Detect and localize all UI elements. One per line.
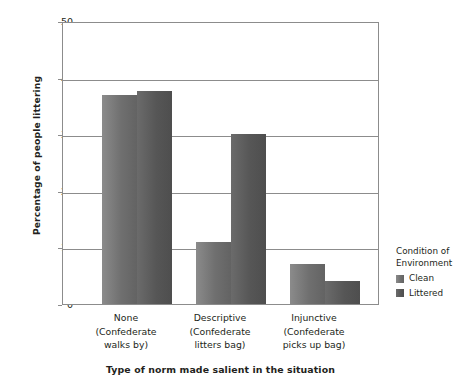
- bar-injunctive-littered: [325, 281, 360, 304]
- y-tick-mark-0: [58, 305, 62, 306]
- legend-swatch-littered-icon: [396, 289, 404, 297]
- legend-title: Condition of Environment: [396, 246, 474, 269]
- category-label-line2: (Confederate: [259, 325, 369, 339]
- gridline-40: [63, 80, 378, 81]
- bar-injunctive-clean: [290, 264, 325, 304]
- x-axis-title: Type of norm made salient in the situati…: [62, 364, 379, 375]
- bar-none-clean: [102, 95, 137, 304]
- legend-item-clean: Clean: [396, 273, 474, 285]
- legend-label-clean: Clean: [409, 273, 434, 285]
- legend-title-line1: Condition of: [396, 246, 474, 258]
- category-label-line1: Injunctive: [259, 311, 369, 325]
- legend-swatch-clean-icon: [396, 275, 404, 283]
- bar-chart-figure: Percentage of people littering 50 40 30 …: [0, 0, 474, 387]
- bar-descriptive-littered: [231, 134, 266, 304]
- plot-area: [62, 22, 379, 305]
- bar-descriptive-clean: [196, 242, 231, 304]
- category-label-line3: picks up bag): [259, 338, 369, 352]
- legend-item-littered: Littered: [396, 288, 474, 300]
- legend-label-littered: Littered: [409, 288, 443, 300]
- legend: Condition of Environment Clean Littered: [396, 246, 474, 299]
- bar-none-littered: [137, 91, 172, 304]
- legend-title-line2: Environment: [396, 258, 474, 270]
- x-category-label-injunctive: Injunctive (Confederate picks up bag): [259, 311, 369, 352]
